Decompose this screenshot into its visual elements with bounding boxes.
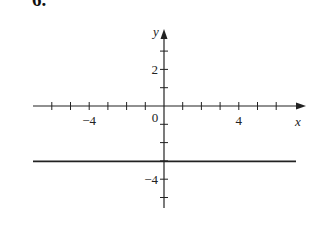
- x-axis-arrow-icon: [296, 103, 306, 110]
- coordinate-plot: −442−40xy: [0, 0, 322, 230]
- x-tick-label: −4: [82, 113, 96, 128]
- y-axis-arrow-icon: [161, 29, 168, 39]
- x-axis-label: x: [294, 114, 301, 129]
- y-tick-label: −4: [144, 172, 158, 187]
- x-tick-label: 4: [236, 113, 243, 128]
- y-axis-label: y: [151, 24, 159, 39]
- y-tick-label: 2: [152, 62, 159, 77]
- origin-label: 0: [152, 110, 159, 125]
